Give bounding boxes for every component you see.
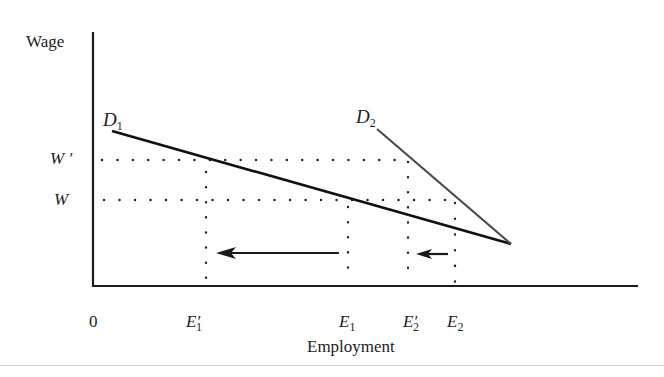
demand-curve-d1 (112, 131, 511, 244)
d2-label: D2 (356, 107, 376, 129)
x-axis-label: Employment (307, 338, 395, 355)
bottom-divider (0, 365, 664, 366)
e2-label: E2 (447, 313, 463, 333)
w-label: W (54, 191, 68, 208)
origin-label: 0 (89, 313, 98, 330)
arrow-e2-to-e2-prime (416, 249, 448, 259)
labor-demand-diagram (0, 0, 664, 377)
w-prime-label: W ′ (50, 150, 72, 167)
e1-label: E1 (339, 313, 355, 333)
demand-curve-d2 (377, 129, 511, 244)
e2-prime-label: E′2 (403, 313, 419, 333)
y-axis-label: Wage (26, 33, 64, 50)
d1-label: D1 (103, 110, 123, 132)
e1-prime-label: E′1 (186, 313, 202, 333)
arrow-e1-to-e1-prime (216, 247, 339, 259)
